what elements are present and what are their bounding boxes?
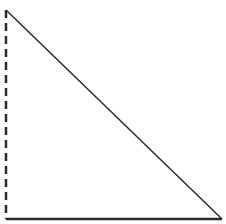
triangle-diagram xyxy=(0,0,226,224)
diagram-canvas xyxy=(0,0,226,224)
hypotenuse xyxy=(6,10,222,219)
